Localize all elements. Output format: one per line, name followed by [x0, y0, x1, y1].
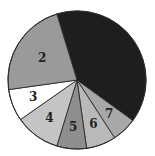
pie-slice-label-7: 7: [105, 107, 113, 121]
pie-slice-label-4: 4: [45, 111, 53, 125]
pie-slice-label-3: 3: [29, 90, 37, 104]
pie-slice-label-5: 5: [69, 120, 77, 134]
pie-chart: 765432: [0, 0, 155, 156]
pie-slice-label-2: 2: [38, 51, 46, 65]
pie-slice-label-6: 6: [89, 117, 97, 131]
